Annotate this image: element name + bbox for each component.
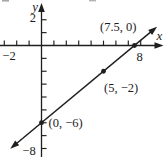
- data-point-dot-5--2: [101, 69, 106, 74]
- x-tick-label-8: 8: [136, 50, 142, 64]
- crop-artifact: [89, 0, 96, 1]
- x-axis-label: x: [156, 28, 163, 43]
- y-axis-arrow-icon: [38, 3, 45, 12]
- point-label-x-intercept: (7.5, 0): [100, 20, 136, 34]
- x-axis: [0, 42, 164, 49]
- data-point-dot-0--6: [39, 120, 44, 125]
- y-tick-label-neg8: −8: [22, 144, 35, 157]
- coordinate-plane-canvas: y x 2 −2 8 −8 (7.5, 0) (5, −2) (0, −6): [0, 0, 165, 157]
- graph-figure: y x 2 −2 8 −8 (7.5, 0) (5, −2) (0, −6): [0, 0, 165, 157]
- y-axis: [38, 3, 45, 157]
- x-axis-arrow-icon: [155, 42, 164, 49]
- y-axis-ticks: [42, 20, 47, 149]
- x-tick-label-neg2: −2: [2, 49, 15, 63]
- point-label-y-intercept: (0, −6): [49, 116, 83, 130]
- data-point-dot-7.5-0: [132, 43, 137, 48]
- point-label-mid-point: (5, −2): [104, 81, 138, 95]
- y-tick-label-2: 2: [30, 11, 36, 25]
- crop-artifact: [2, 0, 9, 2]
- x-axis-ticks: [4, 41, 140, 46]
